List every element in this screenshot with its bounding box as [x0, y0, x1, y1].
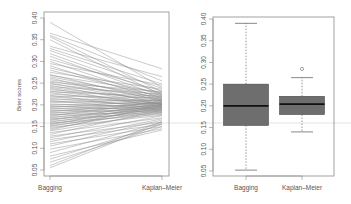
figure: 0.050.100.150.200.250.300.350.40 Bagging…	[0, 0, 351, 204]
y-tick-label: 0.35	[31, 33, 38, 46]
paired-lines	[50, 22, 162, 167]
right-x-axis: Bagging Kaplan–Meier	[234, 176, 323, 192]
outlier-point	[300, 67, 303, 70]
y-tick-label: 0.20	[31, 98, 38, 111]
y-tick-label: 0.30	[200, 56, 207, 69]
y-tick-label: 0.20	[200, 99, 207, 112]
pair-line	[50, 51, 162, 89]
iqr-box	[224, 84, 269, 125]
right-y-axis: 0.050.100.150.200.250.300.350.40	[200, 12, 213, 177]
y-tick-label: 0.40	[200, 12, 207, 25]
y-tick-label: 0.15	[200, 121, 207, 134]
x-label-bagging: Bagging	[234, 184, 258, 192]
x-label-kaplan-meier: Kaplan–Meier	[142, 184, 183, 192]
x-label-bagging: Bagging	[38, 184, 62, 192]
y-tick-label: 0.40	[31, 11, 38, 24]
iqr-box	[280, 96, 325, 114]
boxplot-kaplan-meier	[280, 67, 325, 132]
left-x-axis: Bagging Kaplan–Meier	[38, 176, 183, 192]
slope-plot-panel: 0.050.100.150.200.250.300.350.40 Bagging…	[16, 11, 183, 192]
x-label-kaplan-meier: Kaplan–Meier	[282, 184, 323, 192]
pair-line	[50, 92, 162, 96]
y-tick-label: 0.15	[31, 120, 38, 133]
y-tick-label: 0.05	[31, 163, 38, 176]
y-tick-label: 0.10	[200, 143, 207, 156]
boxplot-bagging	[224, 23, 269, 170]
y-tick-label: 0.25	[200, 77, 207, 90]
y-tick-label: 0.30	[31, 55, 38, 68]
y-axis-title: Brier scores	[16, 79, 22, 111]
y-tick-label: 0.35	[200, 34, 207, 47]
y-tick-label: 0.25	[31, 76, 38, 89]
boxplot-panel: 0.050.100.150.200.250.300.350.40 Bagging…	[200, 12, 334, 192]
boxplots	[224, 23, 325, 170]
y-tick-label: 0.10	[31, 142, 38, 155]
pair-line	[50, 123, 162, 168]
y-tick-label: 0.05	[200, 164, 207, 177]
left-y-axis: 0.050.100.150.200.250.300.350.40	[31, 11, 44, 176]
